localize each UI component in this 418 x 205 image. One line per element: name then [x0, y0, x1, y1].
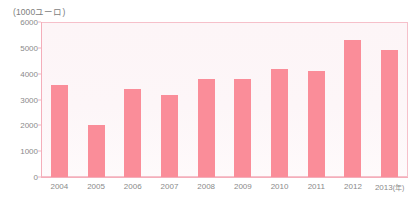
bar-column	[198, 22, 215, 177]
x-axis-tick-label: 2006	[124, 182, 142, 191]
bar-chart: (1000ユーロ) 0100020003000400050006000 2004…	[0, 0, 418, 205]
y-axis-tick-label: 0	[2, 173, 38, 182]
y-axis-tick-label: 2000	[2, 121, 38, 130]
x-axis-tick-label: 2004	[50, 182, 68, 191]
bar-column	[308, 22, 325, 177]
x-axis-tick-label: 2011	[308, 182, 325, 191]
bar-column	[161, 22, 178, 177]
bar	[381, 50, 398, 177]
y-axis-tick-mark	[38, 47, 41, 48]
bar	[271, 69, 288, 177]
bar-column	[381, 22, 398, 177]
bar	[198, 79, 215, 177]
y-axis-tick-mark	[38, 22, 41, 23]
y-axis-tick-label: 5000	[2, 43, 38, 52]
y-axis-tick-mark	[38, 125, 41, 126]
bar	[51, 85, 68, 177]
bar-column	[124, 22, 141, 177]
bar-column	[51, 22, 68, 177]
x-axis-tick-label: 2005	[87, 182, 105, 191]
x-axis-tick-label: 2007	[161, 182, 179, 191]
y-axis-line	[41, 22, 42, 178]
y-axis-tick-mark	[38, 151, 41, 152]
x-axis-tick-label: 2012	[344, 182, 362, 191]
bar-column	[234, 22, 251, 177]
y-axis-tick-mark	[38, 99, 41, 100]
y-axis-tick-label: 6000	[2, 18, 38, 27]
bar	[234, 79, 251, 177]
bar-column	[88, 22, 105, 177]
y-axis-tick-label: 1000	[2, 147, 38, 156]
x-axis-tick-label: 2010	[271, 182, 289, 191]
bar	[308, 71, 325, 177]
bar-column	[344, 22, 361, 177]
bar	[161, 95, 178, 177]
y-axis-tick-mark	[38, 177, 41, 178]
y-axis-tick-label: 3000	[2, 95, 38, 104]
x-axis-tick-label: 2013(年)	[375, 182, 404, 192]
y-axis: 0100020003000400050006000	[0, 0, 38, 205]
bar	[88, 125, 105, 177]
y-axis-tick-mark	[38, 73, 41, 74]
bar	[344, 40, 361, 177]
y-axis-tick-label: 4000	[2, 69, 38, 78]
x-axis-tick-label: 2009	[234, 182, 252, 191]
bar	[124, 89, 141, 177]
x-axis-line	[41, 177, 408, 178]
bar-column	[271, 22, 288, 177]
x-axis-tick-label: 2008	[197, 182, 215, 191]
